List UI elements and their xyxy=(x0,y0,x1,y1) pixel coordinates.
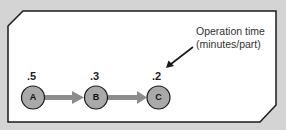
annotation-text: Operation time (minutes/part) xyxy=(196,25,265,51)
node-b-label: B xyxy=(86,93,106,102)
diagram-canvas xyxy=(0,0,286,130)
annotation-line-1: Operation time xyxy=(196,25,265,38)
node-c-value: .2 xyxy=(152,71,161,82)
node-a-label: A xyxy=(23,93,43,102)
annotation-line-2: (minutes/part) xyxy=(196,38,265,51)
node-a-value: .5 xyxy=(27,71,36,82)
node-b-value: .3 xyxy=(90,71,99,82)
node-c-label: C xyxy=(149,93,169,102)
